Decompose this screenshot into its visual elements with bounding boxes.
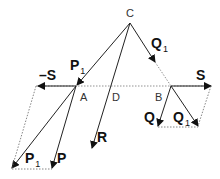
label-q: Q	[144, 110, 155, 124]
point-label-c: C	[126, 8, 134, 19]
label-r: R	[97, 130, 107, 144]
label-q1-top: Q1	[151, 36, 168, 50]
label-p: P	[57, 151, 66, 165]
point-label-a: A	[80, 92, 87, 103]
point-label-d: D	[112, 92, 120, 103]
label-s: S	[196, 68, 205, 82]
label-minus-s: –S	[39, 68, 56, 82]
point-label-b: B	[155, 92, 162, 103]
dashed-S-Q1	[198, 86, 211, 126]
label-q1-bottom: Q1	[173, 110, 190, 124]
vector-p1-bottom	[12, 86, 76, 168]
label-p1-top: P1	[70, 58, 85, 72]
label-p1-bottom: P1	[25, 151, 40, 165]
line-Q1-B	[155, 62, 171, 86]
